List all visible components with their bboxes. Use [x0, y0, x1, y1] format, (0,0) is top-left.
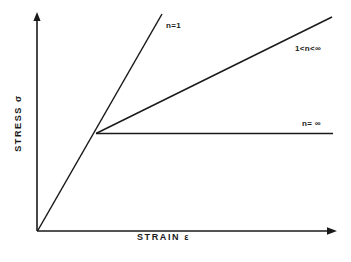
arrow-up-icon: [33, 12, 40, 21]
curve-n-between-1-and-infinity: [96, 17, 332, 134]
curve-label-n-equals-1: n=1: [166, 21, 181, 30]
curve-n-equals-1: [38, 14, 163, 231]
stress-strain-figure: STRESS σ STRAIN ε n=1 1<n<∞ n= ∞: [0, 0, 351, 262]
curve-label-n-equals-infinity: n= ∞: [302, 119, 321, 128]
x-axis-title: STRAIN ε: [137, 232, 190, 242]
plot-canvas: [0, 0, 351, 262]
y-axis-title: STRESS σ: [13, 83, 23, 163]
arrow-right-icon: [327, 227, 337, 235]
curve-label-n-between-1-and-infinity: 1<n<∞: [295, 44, 321, 53]
